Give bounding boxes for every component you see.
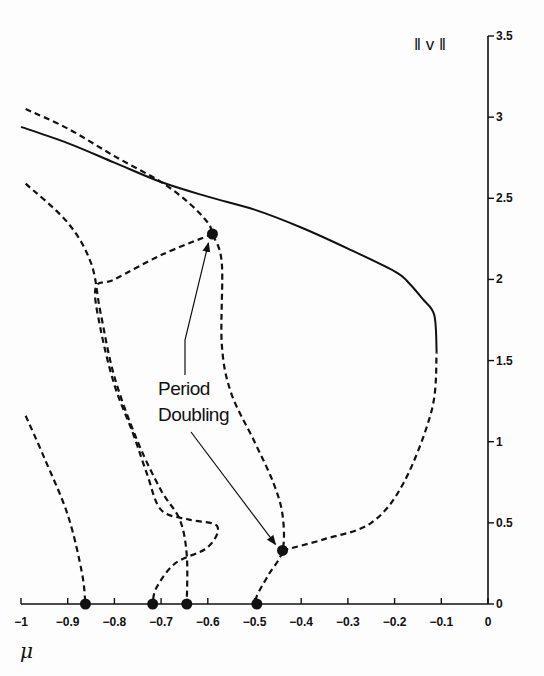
bifurcation-point-marker (147, 599, 158, 610)
annotation-line-2: Doubling (158, 404, 229, 425)
x-tick-label: −0.2 (383, 615, 407, 629)
y-tick-label: 1 (496, 435, 503, 449)
arrow-upper (185, 243, 208, 375)
x-tick-label: −0.8 (103, 615, 127, 629)
x-tick-label: −0.5 (243, 615, 267, 629)
bifurcation-chart: −1−0.9−0.8−0.7−0.6−0.5−0.4−0.3−0.2−0.100… (0, 0, 544, 676)
bifurcation-point-marker (277, 545, 288, 556)
bifurcation-point-marker (181, 599, 192, 610)
curve-4 (26, 416, 86, 604)
x-tick-label: −0.7 (149, 615, 173, 629)
curve-0 (21, 127, 437, 353)
y-tick-label: 0.5 (496, 516, 513, 530)
y-tick-label: 2.5 (496, 191, 513, 205)
x-tick-label: −0.6 (196, 615, 220, 629)
arrow-lower (191, 432, 276, 544)
curves (21, 109, 437, 604)
bifurcation-point-marker (80, 599, 91, 610)
y-tick-label: 0 (496, 597, 503, 611)
period-doubling-annotation: Period Doubling (158, 243, 276, 544)
y-tick-label: 2 (496, 272, 503, 286)
x-tick-label: −0.3 (336, 615, 360, 629)
y-tick-label: 1.5 (496, 354, 513, 368)
curve-1 (26, 109, 284, 604)
curve-5 (283, 352, 437, 550)
annotation-line-1: Period (158, 378, 210, 399)
y-axis-label: ‖ v ‖ (414, 35, 446, 54)
y-tick-label: 3 (496, 110, 503, 124)
y-tick-label: 3.5 (496, 29, 513, 43)
bifurcation-point-marker (207, 228, 218, 239)
x-tick-label: −0.4 (289, 615, 313, 629)
x-axis-label: μ (20, 639, 33, 663)
bifurcation-point-marker (251, 599, 262, 610)
x-tick-label: −1 (14, 615, 28, 629)
x-tick-label: −0.1 (429, 615, 453, 629)
x-tick-label: 0 (485, 615, 492, 629)
axes: −1−0.9−0.8−0.7−0.6−0.5−0.4−0.3−0.2−0.100… (14, 29, 513, 629)
x-tick-label: −0.9 (56, 615, 80, 629)
